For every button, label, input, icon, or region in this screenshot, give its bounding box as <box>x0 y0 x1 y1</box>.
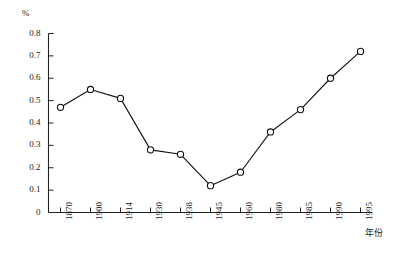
data-series <box>57 48 363 188</box>
y-tick-label: 0.6 <box>15 73 41 82</box>
y-tick-label: 0 <box>15 208 41 217</box>
x-tick-label: 1870 <box>65 202 74 220</box>
y-tick-label: 0.7 <box>15 51 41 60</box>
data-point-marker <box>357 48 363 54</box>
y-tick-label: 0.4 <box>15 118 41 127</box>
y-tick-label: 0.3 <box>15 140 41 149</box>
data-point-marker <box>87 86 93 92</box>
y-tick-label: 0.8 <box>15 29 41 38</box>
line-chart: % 00.10.20.30.40.50.60.70.8 187019001914… <box>0 0 400 257</box>
x-tick-label: 1914 <box>125 202 134 220</box>
x-tick-label: 1960 <box>245 202 254 220</box>
data-point-marker <box>177 151 183 157</box>
y-tick-label: 0.5 <box>15 96 41 105</box>
x-tick-label: 1938 <box>185 202 194 220</box>
x-tick-label: 1985 <box>305 202 314 220</box>
x-tick-label: 1990 <box>335 202 344 220</box>
y-tick-label: 0.1 <box>15 185 41 194</box>
data-point-marker <box>57 104 63 110</box>
x-tick-label: 1945 <box>215 202 224 220</box>
data-point-marker <box>237 169 243 175</box>
data-point-marker <box>297 106 303 112</box>
x-axis-title: 年份 <box>365 228 383 238</box>
x-tick-label: 1980 <box>275 202 284 220</box>
data-point-marker <box>327 75 333 81</box>
series-line <box>61 51 361 185</box>
data-point-marker <box>147 147 153 153</box>
y-tick-label: 0.2 <box>15 163 41 172</box>
data-point-marker <box>267 129 273 135</box>
data-point-marker <box>207 183 213 189</box>
data-point-marker <box>117 95 123 101</box>
x-tick-label: 1900 <box>95 202 104 220</box>
x-tick-label: 1930 <box>155 202 164 220</box>
x-tick-label: 1995 <box>365 202 374 220</box>
